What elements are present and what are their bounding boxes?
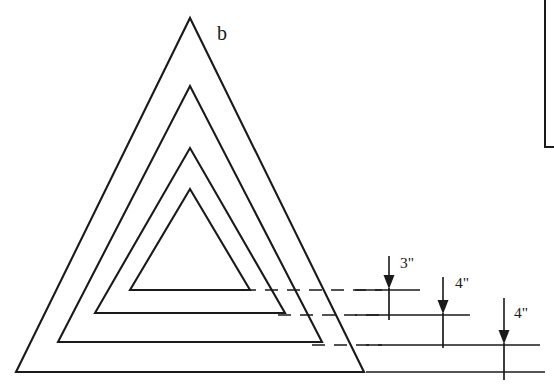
- dimension-arrow-1-group: [384, 256, 395, 289]
- partial-frame-group: [545, 0, 554, 147]
- dimension-arrow-2-group: [438, 277, 449, 314]
- third-triangle: [95, 148, 285, 313]
- outer-triangle: [16, 18, 364, 372]
- dimension-label-1: 3": [400, 254, 414, 271]
- technical-drawing-svg: b 3" 4" 4": [0, 0, 554, 391]
- dimension-label-3: 4": [514, 304, 528, 321]
- dimension-arrow-2-head: [438, 300, 449, 314]
- dimension-arrow-3-head: [499, 330, 510, 344]
- second-triangle: [58, 86, 322, 342]
- figure-canvas: b 3" 4" 4": [0, 0, 554, 391]
- figure-label-b: b: [217, 22, 227, 44]
- nested-triangles-group: [16, 18, 364, 372]
- dimension-arrow-1-head: [384, 275, 395, 289]
- inner-triangle: [130, 189, 250, 290]
- partial-frame-corner: [545, 0, 554, 147]
- dimension-arrow-3-group: [499, 298, 510, 344]
- dimension-step-lines-group: [355, 290, 545, 372]
- leader-lines-group: [243, 290, 382, 345]
- dimension-label-2: 4": [455, 274, 469, 291]
